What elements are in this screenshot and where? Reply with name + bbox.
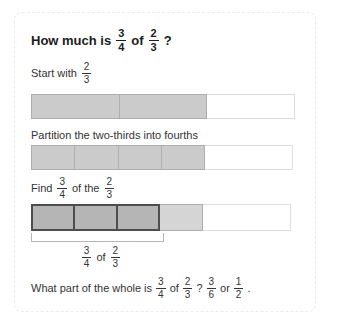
numerator: 2 [111,246,121,258]
step3-middle: of the [72,182,100,194]
underbrace-bracket [31,233,164,242]
bar2-fourth-3-filled [118,145,162,170]
page-title: How much is 3 4 of 2 3 ? [31,27,299,53]
bar3-fourth-1-selected [31,204,75,231]
bar3-third-3-empty [202,204,291,231]
question-fraction-three-fourths: 3 4 [156,277,166,300]
step1-prefix: Start with [31,67,77,79]
question-line: What part of the whole is 3 4 of 2 3 ? 3… [31,276,299,300]
denominator: 3 [84,74,90,85]
title-fraction-three-fourths: 3 4 [116,28,126,53]
lesson-card: How much is 3 4 of 2 3 ? Start with 2 3 … [14,12,316,312]
bar3-fourth-2-selected [73,204,117,231]
numerator: 2 [183,277,193,289]
denominator: 3 [113,258,119,269]
bar1-third-2-filled [119,94,208,119]
bar3-fourth-4-unselected [159,204,203,231]
bracket-fraction-three-fourths: 3 4 [82,246,92,269]
question-prefix: What part of the whole is [31,282,152,294]
bar3-fourth-3-selected [116,204,160,231]
step2-label: Partition the two-thirds into fourths [31,128,299,141]
question-of: of [170,282,179,294]
step1-fraction-two-thirds: 2 3 [82,62,92,85]
answer-or: or [220,282,230,294]
bar1-third-1-filled [31,94,120,119]
numerator: 2 [149,28,159,41]
denominator: 3 [185,289,191,300]
question-fraction-two-thirds: 2 3 [183,277,193,300]
denominator: 4 [59,189,65,200]
bar2-third-3-empty [204,145,293,170]
bar-start-two-thirds [31,94,297,119]
question-mark: ? [196,282,202,294]
bar2-fourth-2-filled [74,145,118,170]
denominator: 2 [236,289,242,300]
bracket-of: of [96,251,105,263]
title-fraction-two-thirds: 2 3 [149,28,159,53]
denominator: 3 [107,189,113,200]
bar-three-fourths-of-two-thirds [31,204,297,231]
step3-fraction-three-fourths: 3 4 [57,177,67,200]
bar2-fourth-1-filled [31,145,75,170]
bar-partitioned-fourths [31,145,297,170]
step2-text: Partition the two-thirds into fourths [31,129,198,141]
title-of: of [131,33,143,48]
step1-label: Start with 2 3 [31,61,299,85]
numerator: 3 [116,28,126,41]
numerator: 1 [234,277,244,289]
numerator: 3 [57,177,67,189]
denominator: 4 [84,258,90,269]
bracket-label: 3 4 of 2 3 [31,245,171,269]
answer-fraction-three-sixths: 3 6 [207,277,217,300]
numerator: 3 [156,277,166,289]
title-prefix: How much is [31,33,111,48]
answer-fraction-one-half: 1 2 [234,277,244,300]
answer-period: . [247,282,250,294]
title-question-mark: ? [164,33,172,48]
denominator: 4 [118,41,124,53]
denominator: 6 [209,289,215,300]
bar2-fourth-4-filled [161,145,205,170]
bracket-fraction-two-thirds: 2 3 [111,246,121,269]
numerator: 3 [82,246,92,258]
numerator: 2 [82,62,92,74]
denominator: 3 [151,41,157,53]
denominator: 4 [158,289,164,300]
step3-label: Find 3 4 of the 2 3 [31,176,299,200]
numerator: 2 [105,177,115,189]
bar1-third-3-empty [206,94,295,119]
step3-prefix: Find [31,182,52,194]
numerator: 3 [207,277,217,289]
step3-fraction-two-thirds: 2 3 [105,177,115,200]
